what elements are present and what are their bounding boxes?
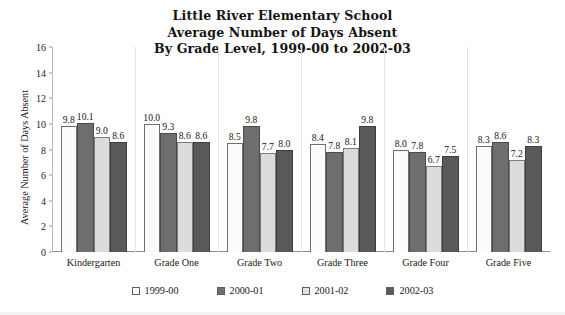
legend-item[interactable]: 1999-00 (132, 285, 179, 296)
x-tick-label: Kindergarten (67, 257, 121, 268)
bar-value-label: 10.1 (77, 111, 94, 122)
x-tick-label: Grade Five (486, 257, 532, 268)
bar[interactable]: 9.3 (160, 133, 177, 252)
bar-value-label: 8.1 (345, 136, 357, 147)
legend-item[interactable]: 2000-01 (217, 285, 264, 296)
bar-value-label: 8.3 (527, 134, 539, 145)
bar[interactable]: 7.2 (509, 160, 526, 252)
x-tick-label: Grade Two (237, 257, 282, 268)
legend-swatch-icon (386, 287, 394, 295)
y-tick-label: 14 (36, 67, 46, 78)
bar-value-label: 8.5 (229, 131, 241, 142)
bar[interactable]: 8.1 (343, 148, 360, 252)
bar[interactable]: 7.8 (409, 152, 426, 252)
bar[interactable]: 8.0 (276, 150, 293, 253)
bar[interactable]: 9.8 (243, 126, 260, 252)
legend-label: 2001-02 (315, 285, 349, 296)
bar-value-label: 8.6 (179, 130, 191, 141)
plot-area: 1614121086420 9.810.19.08.6Kindergarten1… (52, 47, 550, 252)
bar-group: 10.09.38.68.6Grade One (135, 47, 218, 252)
bar[interactable]: 8.3 (525, 146, 542, 252)
bar-value-label: 8.0 (278, 138, 290, 149)
bar-value-label: 8.3 (478, 134, 490, 145)
bar[interactable]: 7.5 (442, 156, 459, 252)
bar-value-label: 9.8 (245, 114, 257, 125)
legend-swatch-icon (132, 287, 140, 295)
bar-slot: 6.7 (426, 47, 443, 252)
bar-value-label: 8.0 (395, 138, 407, 149)
bar-slot: 8.5 (227, 47, 244, 252)
bar[interactable]: 8.6 (110, 142, 127, 252)
bar-value-label: 10.0 (143, 112, 160, 123)
bar-group: 8.38.67.28.3Grade Five (467, 47, 550, 252)
y-axis-title: Average Number of Days Absent (19, 48, 30, 268)
bar[interactable]: 7.8 (326, 152, 343, 252)
bar[interactable]: 9.8 (61, 126, 78, 252)
bar-slot: 9.3 (160, 47, 177, 252)
bar[interactable]: 8.5 (227, 143, 244, 252)
bar-slot: 8.4 (310, 47, 327, 252)
bar[interactable]: 8.4 (310, 144, 327, 252)
y-tick-label: 8 (41, 144, 46, 155)
bar[interactable]: 8.3 (476, 146, 493, 252)
bar[interactable]: 9.0 (94, 137, 111, 252)
bar[interactable]: 10.0 (144, 124, 161, 252)
bar-slot: 10.1 (77, 47, 94, 252)
bar-value-label: 9.8 (63, 114, 75, 125)
bar-value-label: 8.6 (494, 130, 506, 141)
legend-swatch-icon (302, 287, 310, 295)
bar-value-label: 8.4 (312, 132, 324, 143)
bar-slot: 8.6 (177, 47, 194, 252)
y-tick-label: 16 (36, 42, 46, 53)
bar-slot: 10.0 (144, 47, 161, 252)
bar[interactable]: 8.6 (193, 142, 210, 252)
y-tick-label: 6 (41, 170, 46, 181)
y-tick-label: 0 (41, 247, 46, 258)
bar-slot: 7.2 (509, 47, 526, 252)
bar[interactable]: 9.8 (359, 126, 376, 252)
y-tick-label: 12 (36, 93, 46, 104)
bar-slot: 8.3 (476, 47, 493, 252)
bar-value-label: 8.6 (195, 130, 207, 141)
y-tick-label: 2 (41, 221, 46, 232)
y-tick-label: 10 (36, 118, 46, 129)
bar-slot: 8.0 (276, 47, 293, 252)
y-tick-label: 4 (41, 195, 46, 206)
bar-group: 8.07.86.77.5Grade Four (384, 47, 467, 252)
bar-value-label: 7.7 (262, 141, 274, 152)
bar[interactable]: 8.0 (393, 150, 410, 253)
bar-slot: 8.0 (393, 47, 410, 252)
legend-item[interactable]: 2001-02 (302, 285, 349, 296)
bar[interactable]: 8.6 (492, 142, 509, 252)
bar-value-label: 6.7 (428, 154, 440, 165)
bar-slot: 9.8 (243, 47, 260, 252)
bar-slot: 8.1 (343, 47, 360, 252)
bar-slot: 8.6 (193, 47, 210, 252)
bar-group: 8.59.87.78.0Grade Two (218, 47, 301, 252)
legend: 1999-002000-012001-022002-03 (0, 285, 565, 296)
bar-value-label: 9.0 (96, 125, 108, 136)
bar-group: 9.810.19.08.6Kindergarten (52, 47, 135, 252)
legend-item[interactable]: 2002-03 (386, 285, 433, 296)
bar-value-label: 7.8 (328, 140, 340, 151)
bar-slot: 7.5 (442, 47, 459, 252)
bar-value-label: 9.3 (162, 121, 174, 132)
bar-slot: 7.7 (260, 47, 277, 252)
bar-slot: 9.8 (359, 47, 376, 252)
bar-value-label: 7.8 (411, 140, 423, 151)
bar[interactable]: 10.1 (77, 123, 94, 252)
bar-value-label: 9.8 (361, 114, 373, 125)
bar-slot: 8.6 (110, 47, 127, 252)
legend-label: 2000-01 (230, 285, 264, 296)
title-line-2: Average Number of Days Absent (0, 25, 565, 42)
title-line-1: Little River Elementary School (0, 8, 565, 25)
bar[interactable]: 6.7 (426, 166, 443, 252)
bar-value-label: 8.6 (112, 130, 124, 141)
bar-group: 8.47.88.19.8Grade Three (301, 47, 384, 252)
legend-label: 1999-00 (145, 285, 179, 296)
bar-value-label: 7.5 (444, 144, 456, 155)
bar[interactable]: 8.6 (177, 142, 194, 252)
bar[interactable]: 7.7 (260, 153, 277, 252)
bar-slot: 9.0 (94, 47, 111, 252)
x-tick-label: Grade Four (402, 257, 449, 268)
